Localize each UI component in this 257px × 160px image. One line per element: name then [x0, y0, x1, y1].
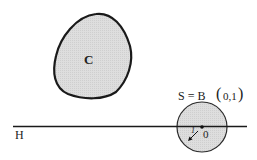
center-label: 0 [203, 128, 209, 140]
figure: C S = B ( 0,1 ) H 0 1 [0, 0, 257, 160]
hyperplane-label: H [15, 128, 24, 143]
radius-label: 1 [191, 126, 195, 135]
sphere-label-paren-open: ( [216, 85, 221, 103]
sphere-label-paren-close: ) [238, 85, 243, 103]
sphere-label-args: 0,1 [223, 90, 237, 102]
sphere-label-prefix: S = B [178, 89, 205, 104]
diagram-canvas [0, 0, 257, 160]
convex-set-label: C [84, 52, 93, 68]
